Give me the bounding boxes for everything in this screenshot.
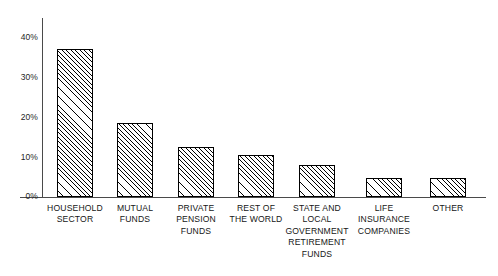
category-label-other: OTHER <box>405 203 491 214</box>
bar-state-and-local-government-retirement-funds[interactable] <box>299 165 335 197</box>
plot-area: 40% 30% 20% 10% 0% HOUSEHOLD SECTOR MUTU… <box>0 0 498 276</box>
bar-other[interactable] <box>430 178 466 197</box>
bar-mutual-funds[interactable] <box>117 123 153 197</box>
bar-chart: 40% 30% 20% 10% 0% HOUSEHOLD SECTOR MUTU… <box>0 0 498 276</box>
bar-rest-of-the-world[interactable] <box>238 155 274 197</box>
bar-life-insurance-companies[interactable] <box>366 178 402 197</box>
bar-private-pension-funds[interactable] <box>178 147 214 197</box>
bar-household-sector[interactable] <box>57 49 93 197</box>
